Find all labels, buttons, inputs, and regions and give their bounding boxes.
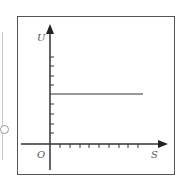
chart-plot bbox=[0, 0, 189, 187]
y-axis-arrow-icon bbox=[46, 24, 54, 34]
origin-label: O bbox=[37, 149, 45, 160]
y-axis-label: U bbox=[37, 32, 45, 43]
x-axis-label: S bbox=[151, 149, 158, 160]
x-axis-arrow-icon bbox=[158, 140, 168, 148]
